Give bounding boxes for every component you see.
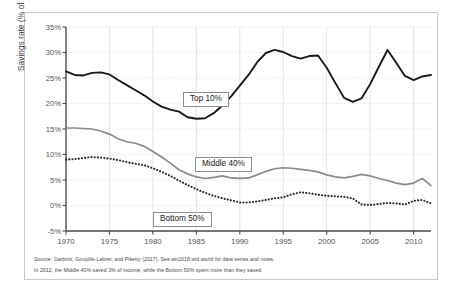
series-label-top10: Top 10% [183, 92, 229, 107]
source-note-line-1: Source: Garbinti, Goupille-Lebret, and P… [34, 256, 275, 262]
y-tick-label: 25% [31, 74, 61, 83]
series-line-top-10 [66, 50, 431, 119]
y-tick-label: 15% [31, 125, 61, 134]
x-tick-label: 1970 [46, 237, 86, 246]
y-tick-label: 20% [31, 99, 61, 108]
series-label-middle40: Middle 40% [195, 157, 252, 172]
source-note-line-2: In 2012, the Middle 40% saved 3% of inco… [34, 267, 263, 273]
x-tick-label: 1995 [263, 237, 303, 246]
x-tick-label: 1990 [220, 237, 260, 246]
x-tick-label: 2000 [307, 237, 347, 246]
y-tick-label: 5% [31, 176, 61, 185]
chart-figure: Savings rate (% of income) 35%30%25%20%1… [24, 12, 438, 280]
data-series [66, 50, 431, 205]
axis-ticks [63, 27, 414, 235]
x-tick-label: 1985 [176, 237, 216, 246]
y-tick-label: -5% [31, 227, 61, 236]
y-tick-label: 10% [31, 150, 61, 159]
y-tick-label: 30% [31, 48, 61, 57]
y-tick-label: 0% [31, 201, 61, 210]
x-tick-label: 2005 [350, 237, 390, 246]
gridlines [66, 27, 431, 231]
x-tick-label: 1975 [89, 237, 129, 246]
x-tick-label: 2010 [394, 237, 434, 246]
y-tick-label: 35% [31, 23, 61, 32]
series-label-bottom50: Bottom 50% [153, 212, 212, 227]
x-tick-label: 1980 [133, 237, 173, 246]
